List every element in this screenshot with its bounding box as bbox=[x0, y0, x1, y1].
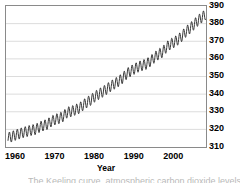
y-tick-label: 380 bbox=[209, 18, 238, 27]
x-tick-label: 1980 bbox=[74, 151, 114, 161]
x-tick-label: 1990 bbox=[114, 151, 154, 161]
y-tick-label: 330 bbox=[209, 106, 238, 115]
y-tick-label: 390 bbox=[209, 1, 238, 10]
y-tick-label: 360 bbox=[209, 53, 238, 62]
y-tick-label: 350 bbox=[209, 71, 238, 80]
x-axis-tick-labels: 19601970198019902000 bbox=[0, 151, 240, 164]
y-tick-label: 310 bbox=[209, 142, 238, 151]
x-tick-label: 1960 bbox=[0, 151, 35, 161]
figure-caption-clipped: The Keeling curve, atmospheric carbon di… bbox=[28, 176, 240, 183]
x-axis-title: Year bbox=[5, 164, 207, 173]
y-axis-tick-labels: 310320330340350360370380390 bbox=[209, 0, 240, 153]
co2-polyline bbox=[8, 11, 206, 142]
y-tick-label: 340 bbox=[209, 89, 238, 98]
co2-series-line bbox=[6, 6, 206, 147]
y-tick-label: 320 bbox=[209, 124, 238, 133]
plot-area bbox=[5, 5, 207, 148]
keeling-curve-figure: 310320330340350360370380390 196019701980… bbox=[0, 0, 240, 183]
x-tick-label: 1970 bbox=[35, 151, 75, 161]
y-tick-label: 370 bbox=[209, 36, 238, 45]
x-tick-label: 2000 bbox=[153, 151, 193, 161]
